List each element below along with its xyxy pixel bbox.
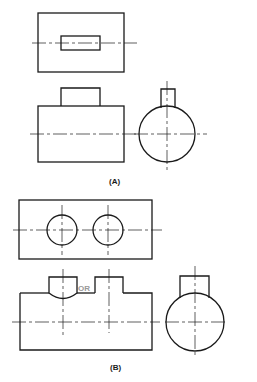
top-view-outline — [38, 13, 124, 72]
figure-a-front-view — [30, 88, 138, 162]
side-view-boss — [161, 89, 175, 108]
figure-b — [12, 200, 228, 358]
figure-a-top-view — [32, 13, 137, 72]
figure-a — [30, 13, 207, 172]
technical-drawing — [0, 0, 257, 382]
figure-b-caption: (B) — [110, 363, 121, 372]
figure-b-top-view — [13, 200, 162, 259]
figure-b-side-view — [165, 266, 228, 358]
figure-a-side-view — [134, 81, 207, 172]
figure-b-front-view — [12, 269, 160, 350]
alternative-or-label: OR — [78, 284, 90, 293]
front-view-boss — [61, 88, 100, 106]
front-view-body — [20, 293, 152, 350]
top-view-outline — [19, 200, 152, 259]
figure-a-caption: (A) — [109, 177, 120, 186]
